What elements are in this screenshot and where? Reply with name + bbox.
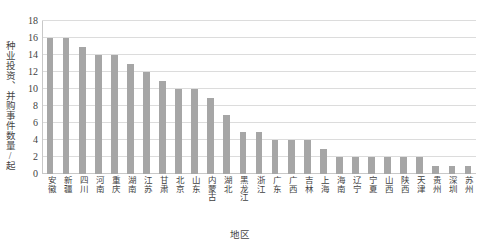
y-axis-tick-label: 8 [33,101,38,111]
bar [368,157,375,174]
y-axis-tick-label: 6 [33,118,38,128]
x-axis-tick-label: 重庆 [110,176,119,193]
x-axis-tick-label: 海南 [335,176,344,193]
x-axis-title: 地区 [0,230,480,241]
x-axis-tick-label: 宁夏 [367,176,376,193]
x-axis-tick-label: 河南 [94,176,103,193]
x-axis-tick-label: 内蒙古 [206,176,215,202]
bar [400,157,407,174]
x-axis-tick-label: 山东 [190,176,199,193]
bar [256,132,263,175]
x-axis-tick-label: 安徽 [46,176,55,193]
y-axis-tick-label: 10 [28,84,38,94]
x-axis-tick-label: 湖北 [222,176,231,193]
bar [304,140,311,174]
x-axis-tick-label: 吉林 [303,176,312,193]
y-axis-tick-label: 14 [28,50,38,60]
bar [432,166,439,175]
bar [47,38,54,174]
bar [79,47,86,175]
x-axis-tick-label: 浙江 [255,176,264,193]
y-axis-tick-label: 12 [28,67,38,77]
bar [159,81,166,175]
x-axis-tick-labels: 安徽新疆四川河南重庆湖南江苏甘肃北京山东内蒙古湖北黑龙江浙江广东广西吉林上海海南… [42,176,476,226]
x-axis-tick-label: 新疆 [62,176,71,193]
plot-area [42,21,476,174]
y-axis-tick-label: 16 [28,33,38,43]
x-axis-tick-label: 苏州 [463,176,472,193]
x-axis-tick-label: 陕西 [399,176,408,193]
bar [240,132,247,175]
x-axis-tick-label: 天津 [415,176,424,193]
bar [95,55,102,174]
x-axis-tick-label: 广东 [271,176,280,193]
bar-series [42,21,476,174]
bar [127,64,134,175]
bar [207,98,214,175]
bar [143,72,150,174]
bar [191,89,198,174]
x-axis-tick-label: 辽宁 [351,176,360,193]
y-axis-tick-label: 0 [33,169,38,179]
bar [223,115,230,175]
x-axis-tick-label: 江苏 [142,176,151,193]
x-axis-tick-label: 广西 [287,176,296,193]
x-axis-tick-label: 四川 [78,176,87,193]
x-axis-tick-label: 北京 [174,176,183,193]
x-axis-tick-label: 上海 [319,176,328,193]
x-axis-tick-label: 甘肃 [158,176,167,193]
bar [288,140,295,174]
y-axis-tick-label: 2 [33,152,38,162]
y-axis-tick-label: 4 [33,135,38,145]
x-axis-tick-label: 深圳 [447,176,456,193]
bar [111,55,118,174]
bar [465,166,472,175]
bar [320,149,327,175]
x-axis-tick-label: 湖南 [126,176,135,193]
x-axis-tick-label: 黑龙江 [238,176,247,202]
x-axis-tick-label: 贵州 [431,176,440,193]
bar [175,89,182,174]
bar [352,157,359,174]
bar [416,157,423,174]
bar [384,157,391,174]
bar [336,157,343,174]
bar-chart: 种业投资、并购事件数量/起 024681012141618 安徽新疆四川河南重庆… [0,0,480,251]
y-axis-tick-labels: 024681012141618 [16,14,40,176]
x-axis-tick-label: 山西 [383,176,392,193]
bar [449,166,456,175]
y-axis-tick-label: 18 [28,16,38,26]
bar [272,140,279,174]
bar [63,38,70,174]
